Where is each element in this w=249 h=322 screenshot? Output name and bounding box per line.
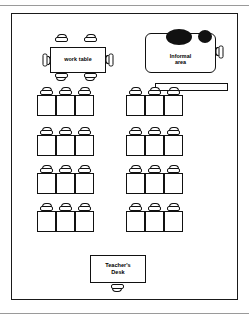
student-desk[interactable] bbox=[75, 211, 94, 232]
student-desk[interactable] bbox=[56, 95, 75, 116]
chair-seat-icon bbox=[219, 46, 224, 59]
student-chair[interactable] bbox=[40, 127, 53, 135]
student-desk[interactable] bbox=[56, 211, 75, 232]
student-chair[interactable] bbox=[129, 203, 142, 211]
student-desk[interactable] bbox=[56, 135, 75, 156]
chair-seat-icon bbox=[55, 37, 68, 42]
work-table-chair-bottom-right[interactable] bbox=[84, 73, 97, 81]
beanbag-small-icon[interactable] bbox=[198, 30, 212, 43]
student-desk[interactable] bbox=[126, 211, 145, 232]
chair-seat-icon bbox=[55, 73, 68, 78]
teacher-desk-surface[interactable]: Teacher's Desk bbox=[90, 255, 146, 283]
work-table-label: work table bbox=[64, 57, 92, 62]
student-desk[interactable] bbox=[37, 211, 56, 232]
student-chair[interactable] bbox=[78, 87, 91, 95]
informal-area-group[interactable]: Informal area bbox=[141, 26, 233, 94]
chair-seat-icon bbox=[84, 73, 97, 78]
student-desk[interactable] bbox=[126, 135, 145, 156]
desk-cluster-row1-right[interactable] bbox=[126, 87, 184, 117]
teacher-chair[interactable] bbox=[111, 284, 124, 292]
student-chair[interactable] bbox=[148, 165, 161, 173]
student-chair[interactable] bbox=[129, 165, 142, 173]
classroom-layout-page: { "diagram": { "title": "Classroom Seati… bbox=[0, 0, 249, 322]
student-chair[interactable] bbox=[167, 127, 180, 135]
student-desk[interactable] bbox=[126, 173, 145, 194]
student-chair[interactable] bbox=[148, 127, 161, 135]
informal-area-label-line2: area bbox=[146, 59, 215, 65]
student-desk[interactable] bbox=[164, 173, 183, 194]
student-desk[interactable] bbox=[145, 211, 164, 232]
student-chair[interactable] bbox=[59, 165, 72, 173]
teacher-desk-label-line2: Desk bbox=[105, 269, 130, 276]
chair-seat-icon bbox=[109, 54, 114, 67]
beanbag-large-icon[interactable] bbox=[166, 29, 192, 45]
page-rule-top bbox=[0, 5, 249, 6]
work-table-chair-top-right[interactable] bbox=[84, 34, 97, 42]
student-chair[interactable] bbox=[167, 203, 180, 211]
classroom-boundary: work table Informal area bbox=[11, 13, 238, 300]
student-desk[interactable] bbox=[75, 135, 94, 156]
desk-cluster-row4-right[interactable] bbox=[126, 203, 184, 233]
student-desk[interactable] bbox=[145, 173, 164, 194]
student-chair[interactable] bbox=[59, 203, 72, 211]
student-desk[interactable] bbox=[164, 135, 183, 156]
work-table-chair-right[interactable] bbox=[106, 54, 114, 67]
desk-cluster-row3-left[interactable] bbox=[37, 165, 95, 195]
desk-cluster-row3-right[interactable] bbox=[126, 165, 184, 195]
student-chair[interactable] bbox=[148, 203, 161, 211]
student-chair[interactable] bbox=[78, 165, 91, 173]
student-chair[interactable] bbox=[129, 127, 142, 135]
work-table-chair-top-left[interactable] bbox=[55, 34, 68, 42]
chair-seat-icon bbox=[111, 284, 124, 289]
student-desk[interactable] bbox=[145, 95, 164, 116]
student-chair[interactable] bbox=[167, 87, 180, 95]
informal-area-label: Informal area bbox=[146, 53, 215, 65]
page-rule-bottom bbox=[0, 313, 249, 314]
student-desk[interactable] bbox=[126, 95, 145, 116]
student-desk[interactable] bbox=[56, 173, 75, 194]
student-chair[interactable] bbox=[40, 165, 53, 173]
student-desk[interactable] bbox=[145, 135, 164, 156]
student-chair[interactable] bbox=[167, 165, 180, 173]
chair-back-icon bbox=[86, 78, 96, 82]
teacher-desk-group[interactable]: Teacher's Desk bbox=[84, 255, 154, 299]
work-table-group[interactable]: work table bbox=[33, 28, 119, 94]
work-table-surface[interactable]: work table bbox=[50, 47, 106, 73]
student-desk[interactable] bbox=[164, 211, 183, 232]
work-table-chair-bottom-left[interactable] bbox=[55, 73, 68, 81]
student-desk[interactable] bbox=[37, 95, 56, 116]
chair-seat-icon bbox=[84, 37, 97, 42]
chair-back-icon bbox=[57, 78, 67, 82]
desk-cluster-row2-left[interactable] bbox=[37, 127, 95, 157]
student-chair[interactable] bbox=[40, 203, 53, 211]
student-desk[interactable] bbox=[75, 95, 94, 116]
student-desk[interactable] bbox=[37, 135, 56, 156]
student-chair[interactable] bbox=[40, 87, 53, 95]
chair-back-icon bbox=[113, 289, 123, 293]
informal-area-side-chair[interactable] bbox=[216, 46, 224, 59]
chair-seat-icon bbox=[43, 54, 48, 67]
teacher-desk-label: Teacher's Desk bbox=[105, 262, 130, 276]
student-chair[interactable] bbox=[59, 127, 72, 135]
student-desk[interactable] bbox=[37, 173, 56, 194]
student-desk[interactable] bbox=[164, 95, 183, 116]
desk-cluster-row2-right[interactable] bbox=[126, 127, 184, 157]
student-chair[interactable] bbox=[78, 203, 91, 211]
teacher-desk-label-line1: Teacher's bbox=[105, 262, 130, 269]
student-chair[interactable] bbox=[59, 87, 72, 95]
student-chair[interactable] bbox=[78, 127, 91, 135]
student-chair[interactable] bbox=[148, 87, 161, 95]
student-chair[interactable] bbox=[129, 87, 142, 95]
desk-cluster-row1-left[interactable] bbox=[37, 87, 95, 117]
desk-cluster-row4-left[interactable] bbox=[37, 203, 95, 233]
student-desk[interactable] bbox=[75, 173, 94, 194]
